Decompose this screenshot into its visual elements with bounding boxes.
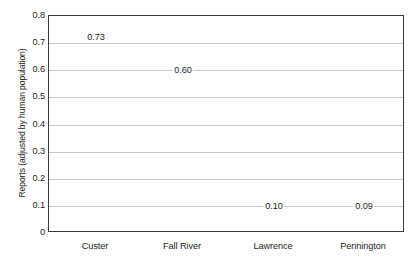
y-tick-label: 0.5 bbox=[5, 91, 45, 101]
gridline bbox=[49, 179, 403, 180]
data-point-label: 0.10 bbox=[263, 201, 284, 211]
x-tick-label: Pennington bbox=[340, 240, 386, 252]
gridline bbox=[49, 97, 403, 98]
y-tick-label: 0.2 bbox=[5, 173, 45, 183]
y-tick-label: 0.3 bbox=[5, 146, 45, 156]
y-tick-label: 0.7 bbox=[5, 37, 45, 47]
y-tick-label: 0.8 bbox=[5, 10, 45, 20]
gridline bbox=[49, 125, 403, 126]
gridline bbox=[49, 206, 403, 207]
y-tick-label: 0.1 bbox=[5, 200, 45, 210]
x-tick-label: Fall River bbox=[163, 240, 201, 252]
data-point-label: 0.73 bbox=[85, 32, 106, 42]
gridline bbox=[49, 152, 403, 153]
x-tick-label: Lawrence bbox=[253, 240, 292, 252]
y-tick-label: 0.6 bbox=[5, 64, 45, 74]
y-axis-tick-labels: 0.8 0.7 0.6 0.5 0.4 0.3 0.2 0.1 0 bbox=[0, 15, 45, 232]
chart-figure: Reports (adjusted by human population) 0… bbox=[0, 0, 417, 271]
y-tick-label: 0 bbox=[5, 227, 45, 237]
data-point-label: 0.09 bbox=[353, 201, 374, 211]
x-tick-label: Custer bbox=[82, 240, 108, 252]
plot-area: 0.73 0.60 0.10 0.09 bbox=[48, 15, 404, 232]
y-tick-label: 0.4 bbox=[5, 119, 45, 129]
data-point-label: 0.60 bbox=[172, 65, 193, 75]
gridline bbox=[49, 70, 403, 71]
x-axis-tick-labels: Custer Fall River Lawrence Pennington bbox=[48, 240, 404, 256]
gridline bbox=[49, 43, 403, 44]
